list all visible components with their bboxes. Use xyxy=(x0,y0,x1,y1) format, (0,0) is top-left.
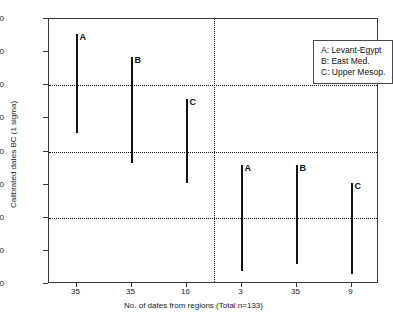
range-bar xyxy=(131,57,133,163)
y-tick-mark-2000 xyxy=(43,283,48,284)
range-bar xyxy=(351,183,353,274)
gridline-y-2600 xyxy=(49,85,377,86)
x-tick-label-1: 35 xyxy=(116,287,146,296)
legend: A: Levant-Egypt B: East Med. C: Upper Me… xyxy=(313,40,393,84)
x-tick-mark-2 xyxy=(186,283,187,287)
group-divider xyxy=(214,19,215,282)
y-tick-label-2600: 2600 xyxy=(0,80,4,89)
x-tick-mark-0 xyxy=(76,283,77,287)
y-tick-mark-2200 xyxy=(43,217,48,218)
x-tick-label-2: 16 xyxy=(171,287,201,296)
x-tick-label-4: 35 xyxy=(281,287,311,296)
legend-entry-b: B: East Med. xyxy=(321,56,385,67)
y-tick-label-2700: 2700 xyxy=(0,47,4,56)
bar-label-c-right: C xyxy=(355,182,362,191)
gridline-y-2400 xyxy=(49,152,377,153)
range-bar xyxy=(296,165,298,264)
y-tick-mark-2700 xyxy=(43,51,48,52)
bar-label-c-left: C xyxy=(190,98,197,107)
y-tick-mark-2400 xyxy=(43,151,48,152)
y-tick-label-2500: 2500 xyxy=(0,113,4,122)
range-bar xyxy=(241,165,243,271)
y-tick-label-2000: 2000 xyxy=(0,279,4,288)
y-axis-title: Calibrated dates BC (1 sigma) xyxy=(9,55,18,255)
x-tick-mark-5 xyxy=(351,283,352,287)
x-tick-mark-1 xyxy=(131,283,132,287)
gridline-y-2200 xyxy=(49,218,377,219)
bar-label-a-left: A xyxy=(80,33,87,42)
y-tick-mark-2100 xyxy=(43,250,48,251)
legend-entry-c: C: Upper Mesop. xyxy=(321,67,385,78)
x-tick-label-0: 35 xyxy=(61,287,91,296)
range-bar xyxy=(76,34,78,133)
x-tick-mark-4 xyxy=(296,283,297,287)
y-tick-label-2300: 2300 xyxy=(0,179,4,188)
bar-label-b-left: B xyxy=(135,56,142,65)
y-tick-mark-2500 xyxy=(43,117,48,118)
x-axis-title: No. of dates from regions (Total n=133) xyxy=(0,301,387,310)
y-tick-mark-2600 xyxy=(43,84,48,85)
y-tick-label-2400: 2400 xyxy=(0,146,4,155)
x-tick-label-3: 3 xyxy=(226,287,256,296)
y-tick-label-2800: 2800 xyxy=(0,14,4,23)
bar-label-b-right: B xyxy=(300,164,307,173)
bar-label-a-right: A xyxy=(245,164,252,173)
y-tick-mark-2300 xyxy=(43,184,48,185)
y-tick-label-2200: 2200 xyxy=(0,212,4,221)
y-tick-label-2100: 2100 xyxy=(0,245,4,254)
plot-area: ABCABC A: Levant-Egypt B: East Med. C: U… xyxy=(48,18,378,283)
x-tick-label-5: 9 xyxy=(336,287,366,296)
range-bar xyxy=(186,99,188,183)
x-tick-mark-3 xyxy=(241,283,242,287)
legend-entry-a: A: Levant-Egypt xyxy=(321,45,385,56)
y-tick-mark-2800 xyxy=(43,18,48,19)
